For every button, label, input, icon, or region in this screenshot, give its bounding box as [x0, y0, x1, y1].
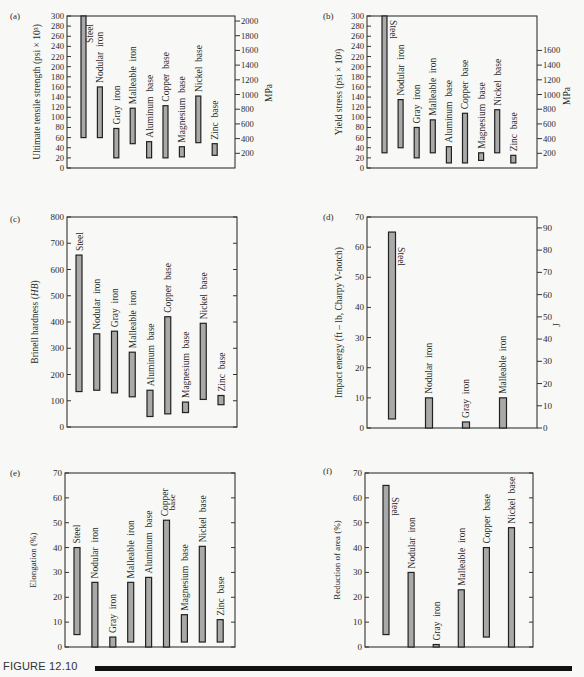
y-axis-title: Ultimate tensile strength (psi × 10³) [32, 24, 43, 160]
y-tick-label: 800 [51, 212, 65, 222]
y-tick-label: 140 [51, 92, 64, 102]
y-tick-label: 20 [353, 592, 363, 602]
range-bar-nickel-base [196, 96, 201, 143]
range-bar-copper-base [163, 106, 168, 158]
bar-label: Malleable iron [499, 336, 509, 394]
range-bar-magnesium-base [183, 402, 189, 413]
range-bar-copper-base [483, 548, 489, 637]
range-bar-aluminum-base [446, 147, 451, 163]
panel-letter: (b) [323, 11, 334, 21]
y2-tick-label: 1200 [241, 75, 258, 85]
y-axis-title: Yield stress (psi × 10³) [334, 49, 345, 135]
range-bar-nodular-iron [94, 334, 100, 390]
bar-label: Zinc base [217, 352, 227, 391]
bar-label: Aluminum base [145, 75, 155, 138]
y-tick-label: 70 [353, 468, 363, 478]
y-tick-label: 700 [51, 238, 65, 248]
y2-tick-label: 600 [543, 119, 556, 129]
bar-label: Steel [388, 20, 398, 39]
range-bar-zinc-base [212, 144, 217, 156]
bar-label: Malleable iron [126, 520, 136, 578]
y-tick-label: 60 [355, 242, 365, 252]
y-tick-label: 100 [351, 112, 364, 122]
range-bar-malleable-iron [430, 120, 435, 153]
y2-tick-label: 1000 [241, 90, 258, 100]
range-bar-steel [389, 232, 396, 419]
y2-tick-label: 1800 [241, 31, 258, 41]
y2-tick-label: 50 [543, 312, 553, 322]
range-bar-nodular-iron [408, 572, 414, 647]
y2-tick-label: 80 [543, 245, 553, 255]
bar-label: Steel [73, 524, 83, 543]
y-tick-label: 300 [51, 11, 64, 21]
bar-label: Zinc base [509, 112, 519, 151]
range-bar-aluminum-base [147, 142, 152, 158]
range-bar-nodular-iron [97, 87, 102, 138]
y2-tick-label: 600 [241, 119, 254, 129]
range-bar-malleable-iron [129, 352, 135, 397]
y-tick-label: 0 [358, 642, 363, 652]
bar-label: Steel [75, 232, 85, 251]
bar-label: base [168, 494, 178, 510]
range-bar-malleable-iron [130, 108, 135, 143]
bar-label: Nickel base [493, 59, 503, 106]
bar-label: Steel [390, 497, 400, 516]
range-bar-zinc-base [511, 155, 516, 163]
y-tick-label: 30 [53, 567, 63, 577]
y2-tick-label: 200 [543, 148, 556, 158]
y2-tick-label: 0 [543, 423, 548, 433]
y-axis-title: Elongation (%) [28, 532, 38, 587]
y-tick-label: 40 [53, 543, 63, 553]
range-bar-copper-base [463, 113, 468, 163]
y2-tick-label: 2000 [241, 16, 258, 26]
y-tick-label: 140 [351, 92, 364, 102]
bar-label: Copper base [163, 263, 173, 313]
panel-letter: (e) [10, 468, 20, 478]
range-bar-gray-iron [110, 637, 116, 647]
range-bar-steel [76, 255, 82, 392]
y-tick-label: 20 [53, 592, 63, 602]
y-tick-label: 500 [51, 291, 65, 301]
y-tick-label: 50 [355, 272, 365, 282]
bar-label: Magnesium base [180, 544, 190, 611]
range-bar-gray-iron [114, 128, 119, 157]
bar-label: Nodular iron [92, 278, 102, 329]
bar-label: Gray iron [412, 84, 422, 123]
y2-tick-label: 1600 [241, 45, 258, 55]
y-tick-label: 50 [353, 518, 363, 528]
bar-label: Gray iron [432, 601, 442, 640]
range-bar-nickel-base [495, 110, 500, 153]
range-bar-nodular-iron [398, 100, 403, 148]
bar-label: Copper base [161, 52, 171, 102]
bar-label: Copper base [482, 494, 492, 544]
y2-tick-label: 70 [543, 267, 553, 277]
y-tick-label: 180 [51, 72, 64, 82]
range-bar-nickel-base [509, 528, 515, 647]
range-bar-copper-base [165, 317, 171, 414]
bar-label: Aluminum base [444, 80, 454, 143]
range-bar-nickel-base [200, 323, 206, 399]
y-tick-label: 80 [355, 122, 364, 132]
y-tick-label: 20 [355, 363, 365, 373]
range-bar-zinc-base [217, 620, 223, 642]
y-tick-label: 0 [60, 422, 65, 432]
bar-label: Magnesium base [477, 82, 487, 148]
y-tick-label: 10 [53, 617, 63, 627]
y2-tick-label: 800 [543, 104, 556, 114]
bar-label: Copper base [461, 60, 471, 110]
y-tick-label: 0 [58, 642, 63, 652]
range-bar-gray-iron [433, 645, 439, 647]
range-bar-magnesium-base [479, 153, 484, 161]
range-bar-magnesium-base [181, 615, 187, 642]
y-tick-label: 300 [351, 11, 364, 21]
y2-tick-label: 20 [543, 379, 553, 389]
y-tick-label: 260 [351, 31, 364, 41]
y-tick-label: 60 [55, 133, 64, 143]
panel-a-tensile-strength-chart: (a)0204060801001201401601802002202402602… [10, 11, 274, 173]
bar-label: Magnesium base [181, 332, 191, 399]
y-tick-label: 280 [51, 21, 64, 31]
y-tick-label: 220 [351, 52, 364, 62]
y-tick-label: 20 [355, 153, 364, 163]
y-axis-title: Impact energy (ft – lb, Charpy V-notch) [334, 247, 345, 398]
y2-tick-label: 1000 [543, 90, 560, 100]
